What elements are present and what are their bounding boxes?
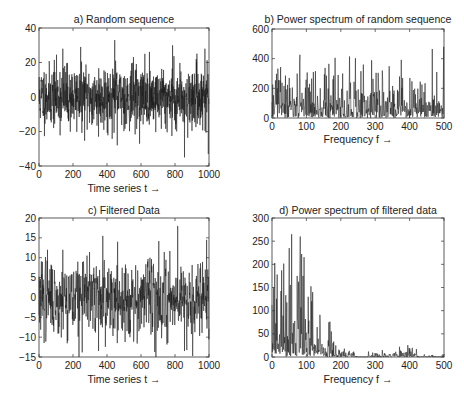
panel-c-xtick-label: 400 <box>99 360 116 371</box>
panel-d-ytick-label: 250 <box>252 236 269 247</box>
panel-c-xtick-label: 600 <box>133 360 150 371</box>
panel-c-ytick-label: −15 <box>19 352 36 363</box>
panel-b-xtick-label: 500 <box>436 121 453 132</box>
panel-b-xtick-label: 400 <box>401 121 418 132</box>
panel-c-ytick-label: 10 <box>25 252 37 263</box>
panel-c-ytick-label: −5 <box>25 312 37 323</box>
panel-c-ytick-label: 15 <box>25 232 37 243</box>
panel-a-xtick-label: 1000 <box>198 169 221 180</box>
panel-b-xlabel: Frequency f → <box>324 133 393 145</box>
panel-d-xtick-label: 400 <box>401 360 418 371</box>
panel-d-axes-box <box>272 218 444 357</box>
panel-b-xtick-label: 0 <box>269 121 275 132</box>
panel-c-filtered-data: c) Filtered Data Time series t → 0200400… <box>19 204 221 385</box>
panel-b-series-line <box>272 47 444 118</box>
panel-b-title: b) Power spectrum of random sequence <box>265 13 452 25</box>
panel-d-ytick-label: 0 <box>263 352 269 363</box>
panel-d-ytick-label: 50 <box>258 328 270 339</box>
figure-four-panel: a) Random sequence Time series t → 02004… <box>0 0 464 396</box>
panel-b-xtick-label: 100 <box>298 121 315 132</box>
panel-a-ytick-label: −40 <box>19 161 36 172</box>
panel-a-series-line <box>39 40 209 157</box>
panel-c-xlabel: Time series t → <box>87 373 160 385</box>
panel-d-ytick-label: 150 <box>252 282 269 293</box>
panel-a-xtick-label: 200 <box>65 169 82 180</box>
panel-d-ytick-label: 100 <box>252 305 269 316</box>
panel-d-xlabel: Frequency f → <box>324 373 393 385</box>
panel-a-xtick-label: 600 <box>133 169 150 180</box>
panel-c-ytick-label: −10 <box>19 332 36 343</box>
panel-c-title: c) Filtered Data <box>88 204 160 216</box>
panel-c-ytick-label: 20 <box>25 213 37 224</box>
panel-b-xtick-label: 200 <box>332 121 349 132</box>
panel-d-xtick-label: 100 <box>298 360 315 371</box>
panel-b-power-spectrum-random: b) Power spectrum of random sequence Fre… <box>252 13 452 145</box>
panel-d-series-line <box>272 234 444 357</box>
panel-d-ytick-label: 300 <box>252 213 269 224</box>
panel-c-xtick-label: 200 <box>65 360 82 371</box>
panel-c-xtick-label: 800 <box>167 360 184 371</box>
panel-d-xtick-label: 0 <box>269 360 275 371</box>
panel-c-xtick-label: 1000 <box>198 360 221 371</box>
panel-d-ytick-label: 200 <box>252 259 269 270</box>
panel-d-xtick-label: 500 <box>436 360 453 371</box>
panel-a-random-sequence: a) Random sequence Time series t → 02004… <box>19 13 221 194</box>
panel-b-ytick-label: 600 <box>252 24 269 35</box>
panel-b-ytick-label: 0 <box>263 113 269 124</box>
panel-d-xtick-label: 300 <box>367 360 384 371</box>
panel-d-xtick-label: 200 <box>332 360 349 371</box>
panel-a-xlabel: Time series t → <box>87 182 160 194</box>
panel-a-ytick-label: 20 <box>25 57 37 68</box>
panel-b-ytick-label: 400 <box>252 53 269 64</box>
panel-b-ytick-label: 200 <box>252 83 269 94</box>
panel-a-xtick-label: 800 <box>167 169 184 180</box>
panel-a-ytick-label: 40 <box>25 23 37 34</box>
panel-b-xtick-label: 300 <box>367 121 384 132</box>
panel-a-ytick-label: −20 <box>19 126 36 137</box>
panel-d-title: d) Power spectrum of filtered data <box>279 204 437 216</box>
panel-a-xtick-label: 0 <box>36 169 42 180</box>
panel-d-power-spectrum-filtered: d) Power spectrum of filtered data Frequ… <box>252 204 452 385</box>
panel-c-xtick-label: 0 <box>36 360 42 371</box>
panel-c-ytick-label: 5 <box>30 272 36 283</box>
panel-a-ytick-label: 0 <box>30 92 36 103</box>
panel-c-series-line <box>39 226 209 357</box>
panel-a-title: a) Random sequence <box>74 13 175 25</box>
panel-a-xtick-label: 400 <box>99 169 116 180</box>
panel-c-ytick-label: 0 <box>30 292 36 303</box>
